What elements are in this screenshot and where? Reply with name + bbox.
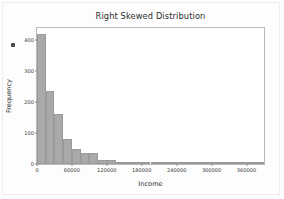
- chart-title: Right Skewed Distribution: [36, 11, 265, 21]
- plot-area: 0100200300400060000120000180000240000300…: [36, 27, 265, 165]
- x-axis-tick-label: 0: [35, 167, 38, 173]
- histogram-bar: [107, 160, 116, 164]
- x-axis-tick-label: 240000: [167, 167, 186, 173]
- x-axis-tick-mark: [176, 164, 177, 166]
- histogram-bar: [46, 91, 55, 164]
- y-axis-tick-label: 200: [24, 99, 34, 105]
- x-axis-tick-label: 60000: [64, 167, 80, 173]
- histogram-bar: [177, 162, 186, 164]
- histogram-bar: [81, 153, 90, 164]
- y-axis-tick-label: 100: [24, 130, 34, 136]
- histogram-bar: [247, 162, 256, 164]
- histogram-bar: [212, 162, 221, 164]
- y-axis-tick-mark: [35, 133, 37, 134]
- histogram-bar: [255, 162, 264, 164]
- x-axis-label: Income: [36, 180, 265, 188]
- y-axis-tick-mark: [35, 102, 37, 103]
- histogram-bar: [159, 162, 168, 164]
- x-axis-tick-mark: [211, 164, 212, 166]
- histogram-bar: [72, 149, 81, 164]
- y-axis-label: Frequency: [5, 79, 13, 113]
- histogram-bar: [116, 162, 125, 164]
- plot-inner: 0100200300400060000120000180000240000300…: [37, 28, 264, 164]
- histogram-bar: [89, 153, 98, 164]
- y-axis-tick-label: 0: [31, 161, 34, 167]
- histogram-bar: [54, 114, 63, 164]
- y-axis-tick-mark: [35, 71, 37, 72]
- y-axis-tick-label: 300: [24, 68, 34, 74]
- x-axis-tick-mark: [37, 164, 38, 166]
- histogram-bar: [63, 139, 72, 164]
- image-artifact-mark: [11, 43, 15, 47]
- x-axis-tick-label: 300000: [202, 167, 221, 173]
- y-axis-tick-mark: [35, 40, 37, 41]
- histogram-bar: [124, 162, 133, 164]
- y-axis-tick-label: 400: [24, 37, 34, 43]
- x-axis-tick-mark: [141, 164, 142, 166]
- histogram-bar: [194, 162, 203, 164]
- histogram-bar: [229, 162, 238, 164]
- histogram-bar: [37, 34, 46, 164]
- histogram-bar: [151, 162, 160, 164]
- histogram-bar: [142, 162, 151, 164]
- chart-figure: Right Skewed Distribution 01002003004000…: [0, 0, 284, 199]
- x-axis-tick-label: 120000: [97, 167, 116, 173]
- histogram-bar: [185, 162, 194, 164]
- x-axis-tick-mark: [106, 164, 107, 166]
- x-axis-tick-label: 360000: [237, 167, 256, 173]
- histogram-bar: [220, 162, 229, 164]
- x-axis-tick-label: 180000: [132, 167, 151, 173]
- x-axis-tick-mark: [246, 164, 247, 166]
- x-axis-tick-mark: [71, 164, 72, 166]
